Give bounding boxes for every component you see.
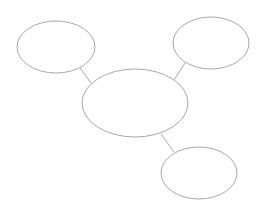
- bubble-top-right: [173, 17, 249, 69]
- ellipse-bottom-right: [161, 147, 237, 199]
- bubble-map-diagram: [0, 0, 261, 216]
- bubble-top-left: [17, 21, 95, 73]
- ellipse-top-left: [17, 21, 95, 73]
- bubble-bottom-right: [161, 147, 237, 199]
- bubble-nodes: [17, 17, 249, 199]
- connector-center-to-bottom-right: [161, 134, 174, 152]
- connector-center-to-top-right: [174, 63, 185, 80]
- ellipse-top-right: [173, 17, 249, 69]
- connector-center-to-top-left: [80, 68, 91, 83]
- ellipse-center: [82, 69, 188, 137]
- bubble-center: [82, 69, 188, 137]
